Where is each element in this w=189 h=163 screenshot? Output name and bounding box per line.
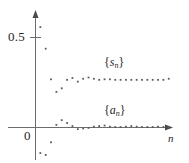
- sequence-partial-sum-plot: 0.5 0 n {sn} {an}: [0, 0, 189, 163]
- data-point: [136, 79, 138, 81]
- data-point: [61, 87, 63, 89]
- data-point: [82, 78, 84, 80]
- data-point: [157, 126, 159, 128]
- data-point: [77, 128, 79, 130]
- series-label-sn: {sn}: [104, 56, 124, 70]
- data-point: [141, 126, 143, 128]
- data-point: [98, 79, 100, 81]
- data-point: [61, 119, 63, 121]
- data-point: [114, 126, 116, 128]
- data-point: [146, 126, 148, 128]
- data-point: [39, 152, 41, 154]
- data-point: [93, 126, 95, 128]
- data-point: [77, 81, 79, 83]
- y-axis-arrow-icon: [33, 10, 39, 18]
- data-point: [163, 126, 165, 128]
- data-point: [125, 126, 127, 128]
- data-point: [136, 126, 138, 128]
- data-point: [109, 126, 111, 128]
- data-point: [98, 125, 100, 127]
- brace-close-an: }: [120, 103, 126, 117]
- data-point: [66, 122, 68, 124]
- data-point: [146, 79, 148, 81]
- series-label-an: {an}: [104, 104, 126, 118]
- x-axis-label: n: [168, 133, 174, 144]
- data-point: [50, 78, 52, 80]
- data-point: [141, 79, 143, 81]
- data-point: [45, 154, 47, 156]
- data-point: [109, 78, 111, 80]
- data-point: [88, 77, 90, 79]
- data-point: [104, 78, 106, 80]
- data-point: [120, 79, 122, 81]
- data-point: [130, 79, 132, 81]
- data-point: [168, 78, 170, 80]
- series-an-dots: [39, 119, 169, 156]
- data-point: [120, 126, 122, 128]
- data-point: [45, 48, 47, 50]
- y-axis-tick-label: 0.5: [8, 30, 25, 43]
- data-point: [130, 125, 132, 127]
- data-point: [157, 79, 159, 81]
- data-point: [50, 141, 52, 143]
- data-point: [104, 125, 106, 127]
- data-point: [125, 79, 127, 81]
- data-point: [39, 26, 41, 28]
- data-point: [88, 127, 90, 129]
- data-point: [72, 77, 74, 79]
- data-point: [168, 126, 170, 128]
- data-point: [152, 79, 154, 81]
- axes-group: [8, 10, 173, 160]
- data-point: [72, 125, 74, 127]
- data-point: [163, 79, 165, 81]
- brace-close-sn: }: [118, 55, 124, 69]
- data-point: [114, 79, 116, 81]
- data-point: [152, 126, 154, 128]
- origin-label: 0: [24, 129, 31, 142]
- data-point: [56, 91, 58, 93]
- data-point: [66, 79, 68, 81]
- data-point: [93, 78, 95, 80]
- data-point: [82, 128, 84, 130]
- data-point: [56, 124, 58, 126]
